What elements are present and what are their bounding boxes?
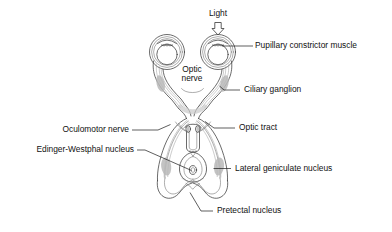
right-ew-shade bbox=[196, 127, 199, 131]
cerebral-aqueduct-inner bbox=[189, 131, 197, 150]
aqueduct-pretectal-connector bbox=[190, 151, 196, 157]
pupillary-reflex-diagram: Light Pupillary constrictor muscle Optic… bbox=[0, 0, 392, 232]
label-pretectal-nucleus: Pretectal nucleus bbox=[217, 205, 281, 215]
label-edinger-westphal-nucleus: Edinger-Westphal nucleus bbox=[36, 144, 134, 154]
diagram-canvas: Light Pupillary constrictor muscle Optic… bbox=[0, 0, 392, 232]
label-light: Light bbox=[209, 8, 228, 18]
label-oculomotor-nerve: Oculomotor nerve bbox=[62, 124, 129, 134]
right-eye-pupil bbox=[208, 44, 228, 64]
cerebral-aqueduct-outline bbox=[187, 131, 200, 153]
midbrain bbox=[157, 119, 227, 199]
left-ew-shade bbox=[187, 127, 190, 131]
light-arrow-group bbox=[212, 23, 224, 36]
right-lateral-geniculate-nucleus-patch bbox=[213, 157, 225, 176]
right-eye bbox=[201, 35, 236, 70]
label-optic-nerve-line2: nerve bbox=[182, 73, 203, 83]
chiasm-arch bbox=[182, 89, 204, 93]
down-arrow-icon bbox=[212, 23, 224, 36]
left-lateral-geniculate-nucleus-patch bbox=[160, 157, 172, 176]
left-eye bbox=[150, 35, 185, 70]
label-lateral-geniculate-nucleus: Lateral geniculate nucleus bbox=[235, 163, 332, 173]
label-pupillary-constrictor-muscle: Pupillary constrictor muscle bbox=[255, 40, 357, 50]
chiasm-shading bbox=[178, 104, 208, 114]
label-optic-tract: Optic tract bbox=[239, 122, 278, 132]
right-peduncle-inner bbox=[193, 178, 221, 194]
leader-pretectal-nucleus bbox=[190, 193, 213, 212]
label-ciliary-ganglion: Ciliary ganglion bbox=[244, 84, 302, 94]
left-eye-pupil bbox=[157, 44, 177, 64]
leader-oculomotor-nerve bbox=[132, 125, 171, 131]
left-peduncle-inner bbox=[164, 178, 192, 194]
optic-chiasm bbox=[178, 89, 208, 119]
